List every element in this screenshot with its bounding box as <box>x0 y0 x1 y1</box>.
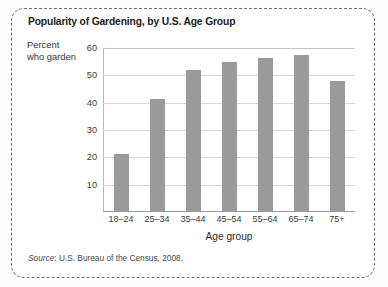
y-tick-label-60: 60 <box>87 43 97 53</box>
source-note: Source: U.S. Bureau of the Census, 2008. <box>28 253 183 263</box>
x-tick-label-25–34: 25–34 <box>144 214 169 224</box>
y-tick-label-40: 40 <box>87 98 97 108</box>
x-tick-label-18–24: 18–24 <box>108 214 133 224</box>
y-tick-label-10: 10 <box>87 180 97 190</box>
source-label: Source <box>28 253 54 263</box>
bar-45–54 <box>222 62 237 211</box>
x-tick-label-45–54: 45–54 <box>216 214 241 224</box>
bar-series <box>103 48 355 212</box>
x-tick-label-55–64: 55–64 <box>252 214 277 224</box>
bar-35–44 <box>186 70 201 211</box>
y-tick-label-50: 50 <box>87 70 97 80</box>
plot-area <box>103 48 355 212</box>
x-axis-title: Age group <box>103 231 355 242</box>
bar-75+ <box>330 81 345 211</box>
bar-18–24 <box>114 154 129 211</box>
bar-65–74 <box>294 55 309 211</box>
y-tick-label-20: 20 <box>87 152 97 162</box>
x-tick-label-65–74: 65–74 <box>288 214 313 224</box>
source-value: : U.S. Bureau of the Census, 2008. <box>54 253 183 263</box>
bar-25–34 <box>150 99 165 211</box>
x-tick-label-35–44: 35–44 <box>180 214 205 224</box>
y-tick-label-30: 30 <box>87 125 97 135</box>
bar-55–64 <box>258 58 273 211</box>
chart-title: Popularity of Gardening, by U.S. Age Gro… <box>28 16 235 27</box>
y-axis-tick-labels: 102030405060 <box>0 48 103 212</box>
figure-root: Popularity of Gardening, by U.S. Age Gro… <box>0 0 388 287</box>
x-tick-label-75+: 75+ <box>329 214 344 224</box>
x-axis-tick-labels: 18–2425–3435–4445–5455–6465–7475+ <box>103 214 355 228</box>
